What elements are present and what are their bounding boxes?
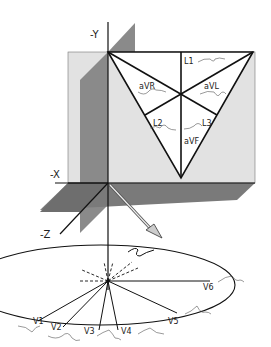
lead-v2-label: V2 — [51, 323, 62, 332]
ecg-lead-diagram: -Y -X -Z L1 aVR aVL L2 L3 aVF V1 V2 V3 V… — [0, 0, 271, 347]
neg-y-label: -Y — [90, 29, 99, 40]
neg-z-label: -Z — [40, 229, 51, 240]
neg-x-label: -X — [50, 169, 60, 180]
lead-v5-label: V5 — [168, 317, 179, 326]
lead-v1-label: V1 — [33, 317, 44, 326]
dashed-lead-lines — [80, 262, 138, 281]
lead-avr-label: aVR — [139, 82, 155, 91]
lead-l1-label: L1 — [184, 57, 194, 66]
lead-avf-label: aVF — [184, 137, 199, 146]
lead-v4-label: V4 — [121, 327, 132, 336]
lead-v3-label: V3 — [84, 327, 95, 336]
precordial-lead-lines — [38, 281, 210, 330]
lead-avl-label: aVL — [204, 82, 219, 91]
lead-v6-label: V6 — [203, 283, 214, 292]
lead-l3-label: L3 — [202, 119, 212, 128]
sagittal-plane-top — [108, 23, 135, 52]
